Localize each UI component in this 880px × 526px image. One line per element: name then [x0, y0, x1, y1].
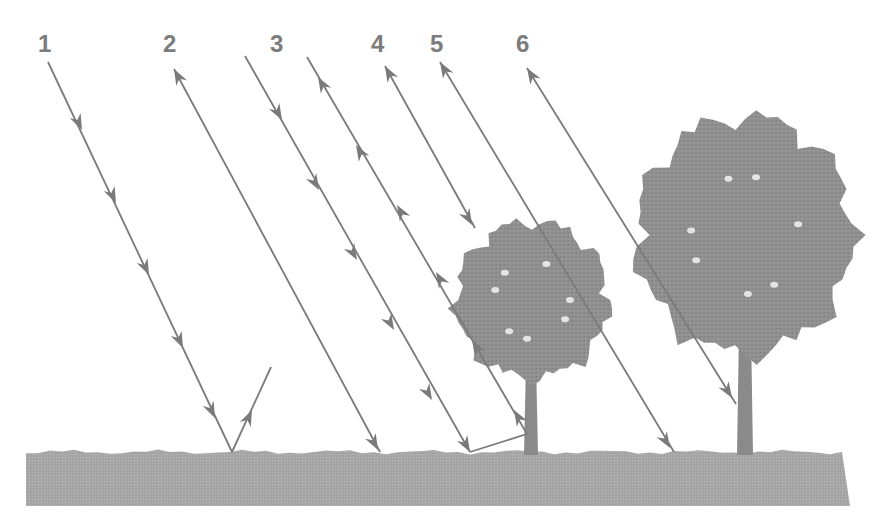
arrowhead-icon — [436, 272, 449, 289]
arrowhead-icon — [527, 68, 541, 85]
arrowhead-icon — [718, 381, 732, 398]
arrowhead-icon — [440, 62, 453, 79]
arrowhead-icon — [344, 243, 357, 260]
arrowhead-icon — [70, 113, 82, 130]
arrowhead-icon — [137, 258, 149, 275]
radiation-rays — [48, 56, 736, 452]
ray-label-1: 1 — [38, 32, 51, 56]
arrowhead-icon — [104, 186, 116, 203]
ray-label-4: 4 — [371, 32, 384, 56]
trees — [448, 110, 866, 455]
arrowhead-icon — [457, 435, 470, 452]
ray-3-incoming — [245, 56, 470, 452]
arrowhead-icon — [174, 69, 187, 86]
arrowhead-icon — [269, 103, 282, 120]
arrowhead-icon — [397, 205, 410, 222]
ray-label-5: 5 — [430, 32, 443, 56]
ray-label-6: 6 — [516, 32, 529, 56]
tree-crown — [448, 218, 613, 385]
arrowhead-icon — [419, 383, 432, 400]
large-tree — [633, 110, 866, 455]
ray-label-3: 3 — [270, 32, 283, 56]
ground — [26, 450, 850, 506]
ray-4 — [385, 66, 475, 228]
ray-1-reflected — [232, 367, 271, 452]
ray-3-reflected-ground — [470, 434, 527, 452]
ray-label-2: 2 — [163, 32, 176, 56]
small-tree — [448, 218, 613, 455]
ray-line — [385, 66, 475, 228]
arrowhead-icon — [385, 66, 398, 83]
arrowhead-icon — [240, 410, 252, 427]
ray-line — [232, 367, 271, 452]
arrowhead-icon — [318, 77, 331, 94]
ray-line — [470, 434, 527, 452]
tree-crown — [633, 110, 866, 365]
ray-1-incoming — [48, 62, 232, 452]
radiation-diagram — [0, 0, 880, 526]
